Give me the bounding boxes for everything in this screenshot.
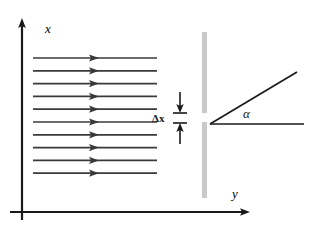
alpha-angle-label: α: [243, 106, 251, 121]
incoming-plane-wave-arrows: [33, 54, 157, 176]
barrier-lower-segment: [202, 122, 207, 198]
coordinate-axes: [10, 18, 250, 220]
diffraction-figure: x y Δx α: [0, 0, 311, 234]
alpha-angle: α: [210, 72, 304, 124]
y-axis-label: y: [230, 186, 238, 201]
delta-x-label: Δx: [152, 112, 165, 124]
diagram-canvas: x y Δx α: [0, 0, 311, 234]
delta-x-dimension: Δx: [152, 92, 187, 144]
barrier-upper-segment: [202, 32, 207, 113]
y-axis: [10, 208, 250, 216]
x-axis: [18, 18, 26, 220]
alpha-diagonal-ray: [210, 72, 297, 124]
x-axis-label: x: [44, 21, 51, 36]
slit-barrier: [202, 32, 207, 198]
